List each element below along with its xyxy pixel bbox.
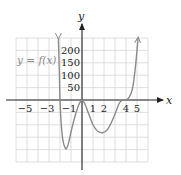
x-tick-label: −1 [62,103,77,114]
x-tick-label: 5 [134,103,140,114]
x-axis-label: x [166,94,173,107]
y-tick-label: 150 [61,57,80,68]
function-label: y = f(x) [16,54,56,66]
function-graph: x y −5−3−1124550100150200 y = f(x) [0,0,181,175]
y-tick-label: 100 [61,70,80,81]
y-axis-label: y [77,10,85,23]
x-tick-label: 2 [101,103,107,114]
x-tick-label: 1 [90,103,96,114]
y-tick-label: 200 [61,45,80,56]
x-tick-label: −3 [40,103,55,114]
x-tick-label: 4 [123,103,129,114]
y-tick-label: 50 [67,82,80,93]
x-tick-label: −5 [18,103,33,114]
